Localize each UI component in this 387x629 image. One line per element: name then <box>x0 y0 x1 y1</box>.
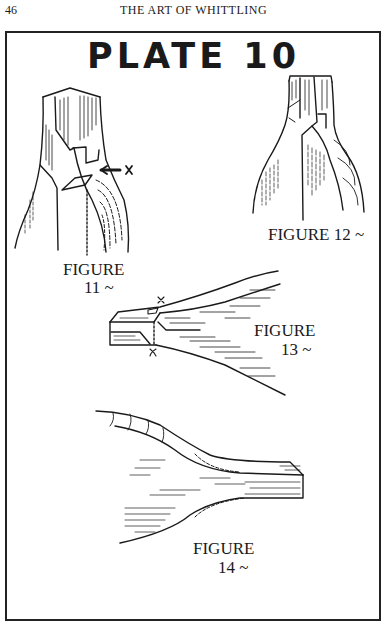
figure-14-number: 14 ~ <box>218 559 248 576</box>
figure-12-label: FIGURE 12 ~ <box>268 226 364 243</box>
figure-13-label: FIGURE <box>254 322 315 339</box>
figure-12-drawing <box>253 76 364 220</box>
figure-11-label: FIGURE <box>63 261 124 278</box>
figure-14-label: FIGURE <box>193 540 254 557</box>
figure-13-number: 13 ~ <box>281 341 311 358</box>
figure-14-drawing <box>96 411 303 543</box>
figure-11-number: 11 ~ <box>84 279 114 296</box>
plate-illustrations <box>0 0 387 629</box>
figure-11-drawing <box>15 88 132 255</box>
